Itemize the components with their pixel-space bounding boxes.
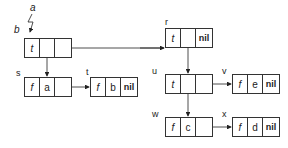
pointer-a-to-b (28, 14, 33, 32)
label-t: t (86, 67, 89, 77)
node-t-value: b (106, 78, 121, 96)
label-a: a (30, 2, 36, 13)
node-x-tag: f (233, 118, 248, 136)
node-b-tag: t (25, 39, 40, 57)
node-r-tag: t (166, 29, 181, 47)
node-w-value: c (181, 118, 196, 136)
node-x: f d nil (232, 117, 280, 137)
label-r: r (165, 17, 168, 27)
node-w: f c (165, 117, 213, 137)
label-u: u (152, 66, 157, 76)
node-s-tag: f (25, 78, 40, 96)
node-u: t (165, 74, 213, 94)
node-t: f b nil (90, 77, 138, 97)
node-v-value: e (248, 75, 263, 93)
node-v: f e nil (232, 74, 280, 94)
node-x-value: d (248, 118, 263, 136)
node-v-tag: f (233, 75, 248, 93)
label-v: v (222, 66, 227, 76)
label-x: x (222, 109, 227, 119)
node-s-value: a (40, 78, 55, 96)
node-b-left (40, 39, 55, 57)
node-u-right (196, 75, 212, 93)
node-u-tag: t (166, 75, 181, 93)
node-s: f a (24, 77, 72, 97)
node-x-right: nil (263, 118, 279, 136)
node-v-right: nil (263, 75, 279, 93)
label-w: w (152, 109, 159, 119)
node-r-right: nil (196, 29, 212, 47)
node-r-left (181, 29, 196, 47)
node-w-right (196, 118, 212, 136)
node-s-right (55, 78, 71, 96)
node-b: t (24, 38, 72, 58)
node-w-tag: f (166, 118, 181, 136)
node-t-tag: f (91, 78, 106, 96)
node-r: t nil (165, 28, 213, 48)
node-b-right (55, 39, 71, 57)
label-s: s (16, 68, 21, 78)
node-t-right: nil (121, 78, 137, 96)
node-u-left (181, 75, 196, 93)
label-b: b (14, 24, 20, 35)
